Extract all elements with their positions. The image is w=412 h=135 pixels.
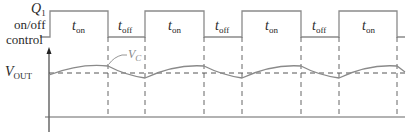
- pulse-label-ton-3: ton: [265, 19, 278, 33]
- vc-label: VC: [128, 48, 141, 60]
- vout-label: VOUT: [5, 65, 32, 79]
- y-axis-arrow-icon: [47, 47, 52, 54]
- on-off-label: on/off: [14, 18, 46, 31]
- vc-ripple-waveform: [49, 65, 405, 78]
- pulse-label-ton-2: ton: [168, 19, 181, 33]
- pulse-label-toff-1: toff: [118, 19, 132, 33]
- q1-label: Q1: [31, 2, 46, 16]
- control-label: control: [6, 33, 43, 46]
- pulse-label-ton-4: ton: [362, 19, 375, 33]
- vc-leader-line: [109, 55, 127, 64]
- pulse-label-ton-1: ton: [72, 19, 85, 33]
- pulse-label-toff-3: toff: [312, 19, 326, 33]
- transition-dashed-lines: [108, 37, 397, 117]
- pulse-label-toff-2: toff: [215, 19, 229, 33]
- q1-main: Q: [31, 1, 41, 16]
- timing-diagram: Q1 on/off control VOUT VC ton toff ton t…: [0, 0, 412, 135]
